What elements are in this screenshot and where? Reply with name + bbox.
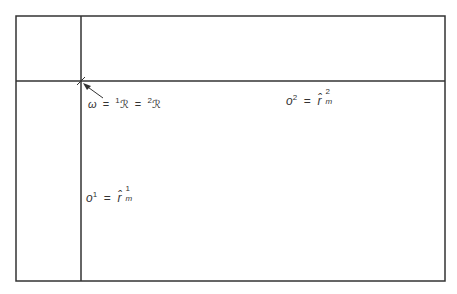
index-stack: 2m	[322, 93, 332, 105]
o1-label: o1 = r̂1m	[86, 190, 132, 204]
frame-symbol-2: ℛ	[152, 98, 161, 110]
o-symbol: o	[86, 191, 93, 205]
frame-symbol-1: ℛ	[120, 98, 129, 110]
superscript-2: 2	[147, 96, 151, 105]
superscript: 1	[126, 185, 130, 193]
subscript: m	[326, 98, 333, 106]
superscript: 2	[293, 93, 297, 102]
o2-label: o2 = r̂2m	[286, 93, 332, 107]
superscript: 2	[326, 88, 330, 96]
diagram-canvas	[0, 0, 457, 294]
equals-sign: =	[104, 191, 111, 205]
index-stack: 1m	[122, 190, 132, 202]
superscript-1: 1	[115, 96, 119, 105]
equals-sign: =	[304, 94, 311, 108]
origin-label: ω = 1ℛ = 2ℛ	[88, 99, 161, 110]
equals-sign: =	[103, 98, 109, 110]
superscript: 1	[93, 190, 97, 199]
equals-sign: =	[135, 98, 141, 110]
o-symbol: o	[286, 94, 293, 108]
subscript: m	[126, 195, 133, 203]
omega-symbol: ω	[88, 98, 97, 110]
